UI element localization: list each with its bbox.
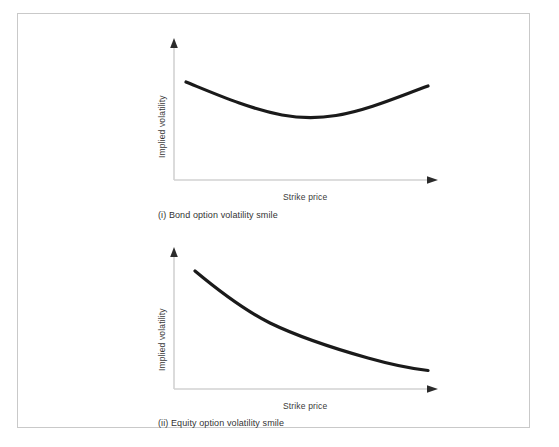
figure-border-frame: Implied volatility Strike price (i) Bond… bbox=[17, 13, 530, 428]
x-axis-arrowhead-icon bbox=[427, 385, 438, 393]
y-axis-label: Implied volatility bbox=[157, 308, 167, 371]
panel-caption: (ii) Equity option volatility smile bbox=[158, 418, 284, 428]
figure-root: Implied volatility Strike price (i) Bond… bbox=[0, 0, 559, 447]
x-axis-label: Strike price bbox=[283, 401, 327, 411]
implied-volatility-curve bbox=[186, 82, 428, 118]
implied-volatility-curve bbox=[195, 271, 428, 371]
y-axis-arrowhead-icon bbox=[170, 38, 178, 48]
x-axis-label: Strike price bbox=[283, 192, 327, 202]
x-axis-arrowhead-icon bbox=[427, 176, 438, 184]
chart-panel-equity: Implied volatility Strike price (ii) Equ… bbox=[18, 219, 531, 427]
y-axis-label: Implied volatility bbox=[157, 95, 167, 158]
equity-option-smile-plot bbox=[18, 219, 531, 419]
chart-panel-bond: Implied volatility Strike price (i) Bond… bbox=[18, 16, 531, 224]
bond-option-smile-plot bbox=[18, 16, 531, 216]
y-axis-arrowhead-icon bbox=[170, 247, 178, 257]
